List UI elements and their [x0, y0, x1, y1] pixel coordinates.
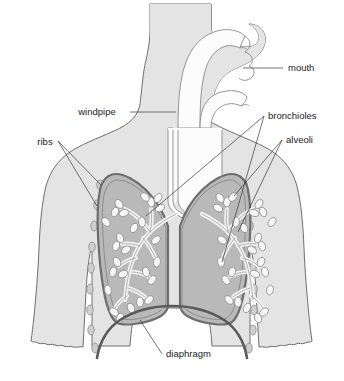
alveolus — [137, 297, 144, 307]
rib-segment — [87, 305, 93, 315]
label-mouth: mouth — [288, 62, 314, 73]
alveolus — [235, 297, 242, 307]
label-alveoli: alveoli — [286, 134, 313, 145]
rib-segment — [250, 325, 256, 335]
rib-segment — [87, 284, 93, 294]
rib-segment — [88, 325, 94, 335]
respiratory-system-diagram: mouth windpipe bronchioles alveoli ribs … — [0, 0, 344, 381]
trachea-top-seam — [168, 128, 222, 130]
label-bronchioles: bronchioles — [268, 110, 317, 121]
label-windpipe: windpipe — [77, 106, 116, 117]
label-diaphragm: diaphragm — [166, 348, 211, 359]
rib-segment — [91, 221, 97, 231]
rib-segment — [89, 242, 95, 252]
diagram-canvas: mouth windpipe bronchioles alveoli ribs … — [0, 0, 344, 381]
trachea-fill-left — [173, 128, 178, 205]
rib-segment — [88, 263, 94, 273]
label-ribs: ribs — [37, 136, 53, 147]
